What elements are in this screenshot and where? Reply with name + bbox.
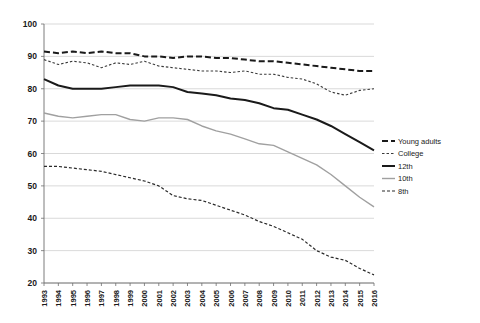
y-tick-label: 40 — [28, 213, 38, 223]
series-line-10th — [44, 113, 374, 207]
y-tick-label: 30 — [28, 246, 38, 256]
y-tick-label: 50 — [28, 181, 38, 191]
legend-label-young-adults: Young adults — [398, 137, 441, 146]
x-tick-label: 2009 — [270, 290, 279, 307]
legend-label-8th: 8th — [398, 187, 408, 196]
x-tick-label: 2007 — [241, 290, 250, 307]
x-tick-label: 2008 — [255, 290, 264, 307]
x-tick-label: 1997 — [97, 290, 106, 307]
chart-legend: Young adultsCollege12th10th8th — [382, 137, 441, 196]
y-tick-label: 60 — [28, 149, 38, 159]
x-tick-label: 1999 — [126, 290, 135, 307]
x-tick-label: 2011 — [298, 290, 307, 306]
y-tick-label: 80 — [28, 84, 38, 94]
x-tick-label: 2015 — [356, 290, 365, 307]
x-tick-label: 1998 — [112, 290, 121, 307]
x-tick-label: 2013 — [327, 290, 336, 307]
x-tick-label: 1996 — [83, 290, 92, 307]
series-line-8th — [44, 166, 374, 274]
x-tick-label: 2016 — [370, 290, 379, 307]
x-tick-label: 2005 — [212, 290, 221, 307]
legend-label-12th: 12th — [398, 162, 413, 171]
x-tick-label: 1994 — [54, 289, 63, 307]
x-tick-label: 2004 — [198, 289, 207, 307]
series-line-young-adults — [44, 52, 374, 71]
series-line-college — [44, 60, 374, 96]
y-tick-label: 90 — [28, 51, 38, 61]
y-tick-label: 100 — [23, 19, 37, 29]
legend-label-10th: 10th — [398, 174, 413, 183]
x-tick-label: 2010 — [284, 290, 293, 307]
x-tick-label: 2012 — [313, 290, 322, 307]
x-tick-label: 1993 — [40, 290, 49, 307]
x-tick-label: 2006 — [227, 290, 236, 307]
x-tick-label: 2002 — [169, 290, 178, 307]
x-tick-label: 2014 — [341, 289, 350, 307]
gridlines-group — [44, 24, 374, 283]
line-chart: 2030405060708090100 19931994199519961997… — [0, 0, 480, 323]
x-tick-label: 2001 — [155, 290, 164, 307]
y-tick-label: 70 — [28, 116, 38, 126]
series-line-12th — [44, 79, 374, 150]
x-tick-label: 2003 — [183, 290, 192, 307]
y-axis: 2030405060708090100 — [23, 19, 44, 288]
x-tick-label: 1995 — [69, 290, 78, 307]
x-tick-label: 2000 — [140, 290, 149, 307]
y-tick-label: 20 — [28, 278, 38, 288]
x-axis: 1993199419951996199719981999200020012002… — [40, 283, 379, 307]
legend-label-college: College — [398, 149, 423, 158]
series-group — [44, 52, 374, 275]
chart-canvas: 2030405060708090100 19931994199519961997… — [0, 0, 480, 323]
